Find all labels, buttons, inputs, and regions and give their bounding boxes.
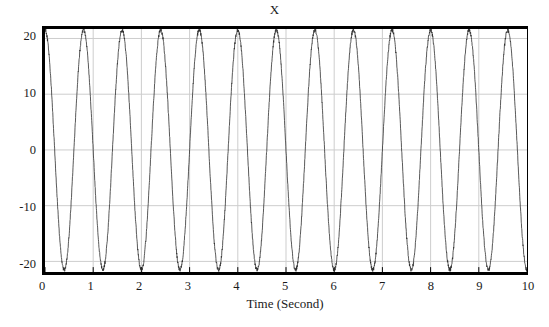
x-tick-label: 1 <box>87 279 93 294</box>
x-tick-label: 2 <box>136 279 142 294</box>
x-tick-label: 10 <box>522 279 535 294</box>
x-tick-label: 3 <box>185 279 191 294</box>
x-axis-label: Time (Second) <box>42 296 528 312</box>
chart-figure: X 20100-10-20 012345678910 Time (Second) <box>0 0 549 327</box>
x-tick-label: 5 <box>282 279 288 294</box>
x-tick-label: 8 <box>428 279 434 294</box>
x-tick-label: 0 <box>39 279 45 294</box>
x-tick-label: 6 <box>330 279 336 294</box>
x-tick-label: 9 <box>476 279 482 294</box>
x-axis-tick-labels: 012345678910 <box>0 0 549 327</box>
x-tick-label: 7 <box>379 279 385 294</box>
x-tick-label: 4 <box>233 279 239 294</box>
